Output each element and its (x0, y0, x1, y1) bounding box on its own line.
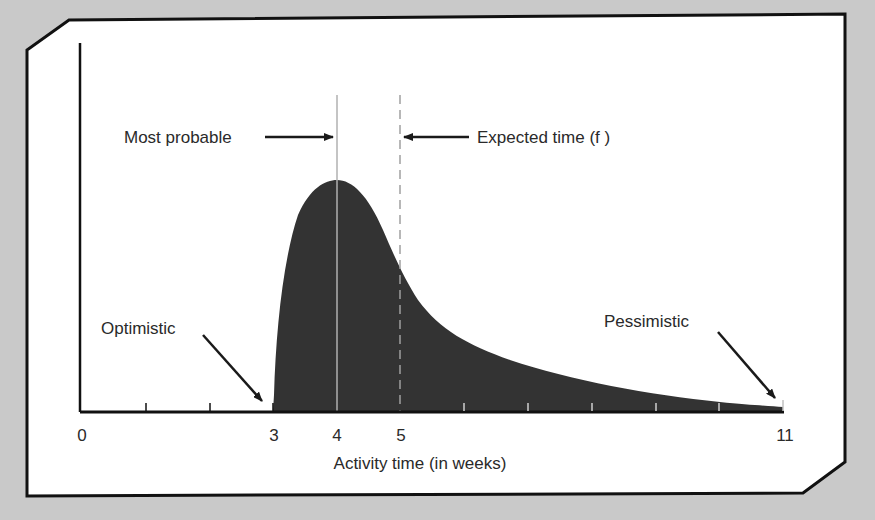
tick-label-4: 4 (332, 426, 341, 445)
tick-label-5: 5 (396, 426, 405, 445)
expected-time-label: Expected time (f ) (477, 128, 610, 147)
tick-label-3: 3 (269, 426, 278, 445)
x-axis-title: Activity time (in weeks) (334, 454, 507, 473)
pessimistic-label: Pessimistic (604, 312, 690, 331)
pert-distribution-figure: 0 3 4 5 11 Activity time (in weeks) Most… (0, 0, 875, 520)
figure-panel (27, 14, 845, 496)
optimistic-label: Optimistic (101, 319, 176, 338)
most-probable-label: Most probable (124, 128, 232, 147)
tick-label-11: 11 (776, 426, 794, 445)
tick-label-0: 0 (77, 426, 86, 445)
